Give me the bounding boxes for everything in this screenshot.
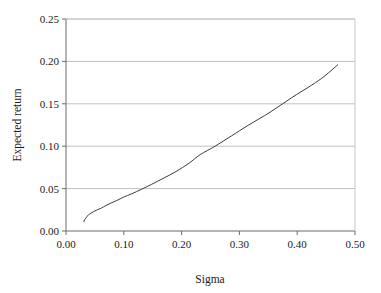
y-tick-label: 0.20 [40, 55, 60, 67]
y-tick-label: 0.15 [40, 98, 60, 110]
x-tick-label: 0.30 [230, 238, 250, 250]
x-tick-label: 0.00 [56, 238, 76, 250]
y-axis-title: Expected return [11, 88, 24, 161]
y-tick-label: 0.10 [40, 140, 60, 152]
y-tick-label: 0.00 [40, 225, 60, 237]
x-tick-label: 0.20 [172, 238, 192, 250]
chart-canvas: 0.000.100.200.300.400.50 0.000.050.100.1… [0, 0, 381, 293]
y-tick-label: 0.25 [40, 13, 60, 25]
efficient-frontier-chart: 0.000.100.200.300.400.50 0.000.050.100.1… [0, 0, 381, 293]
y-tick-label: 0.05 [40, 183, 60, 195]
x-axis-title: Sigma [195, 273, 224, 286]
x-tick-label: 0.40 [288, 238, 308, 250]
x-tick-label: 0.50 [345, 238, 365, 250]
x-tick-label: 0.10 [114, 238, 134, 250]
